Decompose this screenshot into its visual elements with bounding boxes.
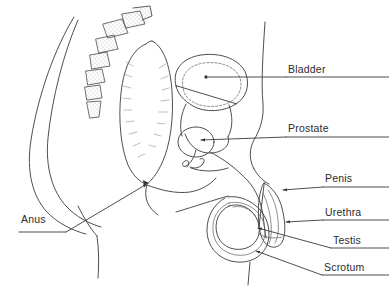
buttock-outline <box>29 17 101 234</box>
leader-scrotum <box>256 251 322 275</box>
anatomy-illustration <box>0 0 389 295</box>
penis <box>258 183 284 247</box>
label-scrotum: Scrotum <box>324 261 365 273</box>
label-penis: Penis <box>325 172 352 184</box>
leader-anus-diag <box>66 184 147 232</box>
diagram-canvas: Bladder Prostate Penis Urethra Testis Sc… <box>0 0 389 295</box>
thigh-line <box>78 206 97 236</box>
label-testis: Testis <box>333 234 361 246</box>
bladder <box>175 54 247 110</box>
label-urethra: Urethra <box>325 206 361 218</box>
label-bladder: Bladder <box>288 63 326 75</box>
rectum <box>120 41 173 184</box>
perineum-contour <box>146 178 228 215</box>
leader-urethra <box>286 220 323 222</box>
abdominal-wall <box>250 22 269 184</box>
leader-penis <box>283 187 323 190</box>
scrotum-drop-line <box>248 262 250 285</box>
testis <box>216 205 259 249</box>
label-anus: Anus <box>21 213 46 225</box>
leg-line <box>97 236 99 278</box>
label-prostate: Prostate <box>288 122 329 134</box>
vertebral-column <box>85 6 152 118</box>
prostate <box>178 104 232 157</box>
urethra <box>210 152 266 238</box>
